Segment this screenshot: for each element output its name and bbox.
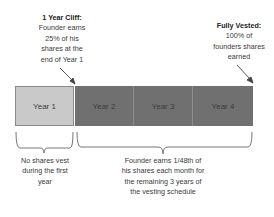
caption-line: the vesting schedule	[113, 187, 213, 197]
caption-line: No shares vest	[6, 156, 84, 166]
caption-line: during the first	[6, 166, 84, 176]
remaining-years-caption: Founder earns 1/48th of his shares each …	[113, 156, 213, 198]
caption-line: year	[6, 177, 84, 187]
caption-line: his shares each month for	[113, 166, 213, 176]
cliff-arrow-icon	[60, 68, 75, 84]
first-year-bracket-icon	[16, 132, 73, 153]
remaining-years-bracket-icon	[77, 132, 252, 154]
caption-line: the remaining 3 years of	[113, 177, 213, 187]
vested-arrow-icon	[237, 65, 253, 83]
first-year-caption: No shares vest during the first year	[6, 156, 84, 187]
caption-line: Founder earns 1/48th of	[113, 156, 213, 166]
